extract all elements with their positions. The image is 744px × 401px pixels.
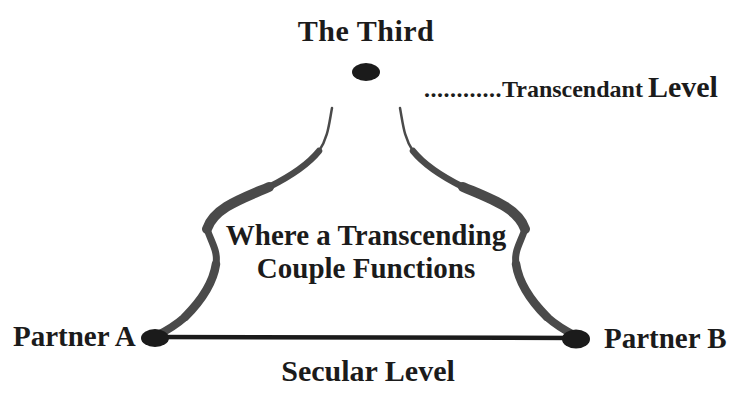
center-caption-line2: Couple Functions — [0, 252, 732, 285]
secular-line — [155, 337, 576, 338]
third-node-dot — [352, 63, 380, 81]
third-label: The Third — [0, 14, 732, 48]
partner-b-label: Partner B — [604, 322, 727, 355]
center-caption: Where a Transcending Couple Functions — [0, 219, 732, 285]
transcendant-level-row: ............TranscendantLevel — [424, 70, 718, 104]
transcendant-level-suffix: Level — [648, 70, 718, 103]
transcendant-label: Transcendant — [502, 76, 643, 102]
secular-level-label: Secular Level — [0, 354, 736, 388]
diagram-canvas: The Third ............TranscendantLevel … — [0, 0, 744, 401]
partner-b-node-dot — [562, 330, 590, 349]
partner-a-label: Partner A — [13, 320, 136, 353]
partner-a-node-dot — [141, 329, 169, 347]
leader-dots: ............ — [424, 76, 502, 102]
center-caption-line1: Where a Transcending — [0, 219, 732, 252]
